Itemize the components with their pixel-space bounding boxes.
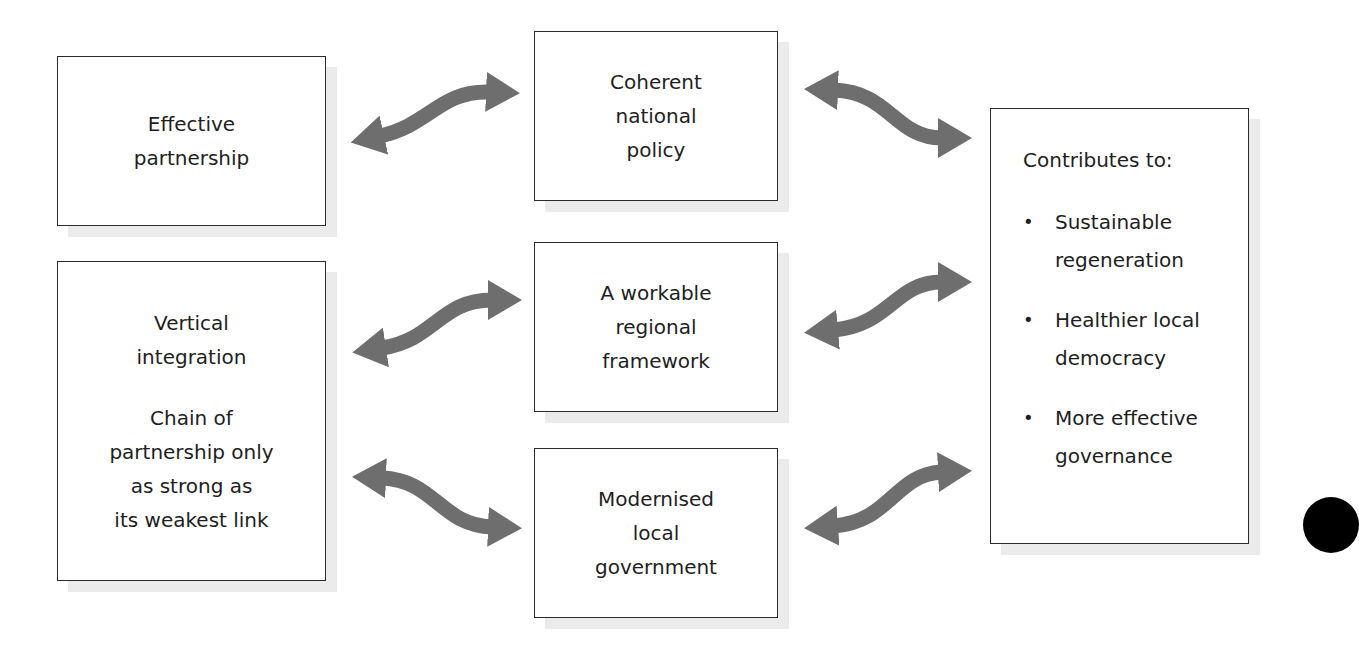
vertical-integration-box: Vertical integration Chain of partnershi… xyxy=(57,261,326,581)
outcome-line: Sustainable xyxy=(1055,203,1184,241)
box-text-line: framework xyxy=(602,344,710,378)
box-title-line: Vertical xyxy=(154,306,229,340)
box-text-line: policy xyxy=(627,133,686,167)
box-text-line: regional xyxy=(615,310,696,344)
arrow-regional-contrib xyxy=(834,282,942,330)
outcome-item: • More effective governance xyxy=(1023,399,1200,475)
outcome-line: regeneration xyxy=(1055,241,1184,279)
outcome-line: More effective xyxy=(1055,399,1198,437)
box-text-line: its weakest link xyxy=(114,503,268,537)
outcome-text: More effective governance xyxy=(1055,399,1198,475)
box-text-line: A workable xyxy=(601,276,712,310)
effective-partnership-box: Effective partnership xyxy=(57,56,326,226)
box-title-line: integration xyxy=(137,340,247,374)
box-text-line: Coherent xyxy=(610,65,702,99)
bullet-icon: • xyxy=(1023,399,1055,475)
box-text-line: partnership only xyxy=(109,435,273,469)
arrow-local-contrib xyxy=(834,472,942,526)
outcome-text: Sustainable regeneration xyxy=(1055,203,1184,279)
outcome-list: • Sustainable regeneration • Healthier l… xyxy=(1023,203,1200,497)
arrow-vertical-regional xyxy=(382,300,492,348)
page-edge-circle-icon xyxy=(1303,497,1359,553)
box-text-line: national xyxy=(615,99,696,133)
box-text-line: partnership xyxy=(134,141,250,175)
outcome-line: Healthier local xyxy=(1055,301,1200,339)
regional-framework-box: A workable regional framework xyxy=(534,242,778,412)
box-text-line: government xyxy=(595,550,717,584)
arrow-vertical-local xyxy=(382,478,492,527)
box-text-line: Modernised xyxy=(598,482,714,516)
outcome-line: governance xyxy=(1055,437,1198,475)
box-text-line: Effective xyxy=(148,107,235,141)
modernised-local-government-box: Modernised local government xyxy=(534,448,778,618)
bullet-icon: • xyxy=(1023,301,1055,377)
contributes-to-box: Contributes to: • Sustainable regenerati… xyxy=(990,108,1249,544)
arrow-effective-coherent xyxy=(380,92,490,136)
box-text-line: as strong as xyxy=(131,469,253,503)
outcome-line: democracy xyxy=(1055,339,1200,377)
outcome-text: Healthier local democracy xyxy=(1055,301,1200,377)
box-text-line: local xyxy=(633,516,680,550)
arrow-coherent-contrib xyxy=(834,90,942,138)
outcome-item: • Sustainable regeneration xyxy=(1023,203,1200,279)
box-text-line: Chain of xyxy=(150,401,233,435)
bullet-icon: • xyxy=(1023,203,1055,279)
coherent-national-policy-box: Coherent national policy xyxy=(534,31,778,201)
outcome-item: • Healthier local democracy xyxy=(1023,301,1200,377)
contributes-heading: Contributes to: xyxy=(1023,143,1173,177)
